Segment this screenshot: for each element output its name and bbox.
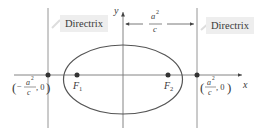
- svg-text:a: a: [207, 78, 211, 87]
- svg-text:): ): [46, 80, 50, 95]
- svg-text:2: 2: [156, 9, 159, 15]
- focus-f2-label: F 2: [163, 80, 173, 92]
- svg-text:a: a: [151, 11, 155, 21]
- svg-text:a: a: [26, 78, 30, 87]
- x-axis-label: x: [242, 79, 248, 90]
- svg-text:, 0: , 0: [36, 82, 45, 92]
- svg-text:(: (: [200, 80, 204, 95]
- svg-text:2: 2: [31, 75, 34, 81]
- right-directrix-point: [195, 73, 200, 78]
- focus-f2-point: [166, 73, 171, 78]
- y-axis-label: y: [113, 5, 119, 16]
- left-point-label: ( − a 2 c , 0 ): [12, 75, 50, 97]
- left-directrix-point: [46, 73, 51, 78]
- left-directrix-label: Directrix: [60, 15, 108, 32]
- distance-label: a 2 c: [149, 9, 162, 34]
- svg-text:): ): [227, 80, 231, 95]
- svg-text:−: −: [17, 81, 22, 91]
- svg-text:c: c: [153, 24, 157, 34]
- svg-text:2: 2: [170, 85, 173, 92]
- right-directrix-label: Directrix: [206, 17, 254, 34]
- svg-text:1: 1: [79, 85, 82, 92]
- right-point-label: ( a 2 c , 0 ): [200, 75, 231, 97]
- svg-text:(: (: [12, 80, 16, 95]
- focus-f1-point: [75, 73, 80, 78]
- svg-text:2: 2: [212, 75, 215, 81]
- svg-text:c: c: [208, 88, 212, 97]
- focus-f1-label: F 1: [72, 80, 82, 92]
- svg-text:c: c: [27, 88, 31, 97]
- svg-text:, 0: , 0: [216, 82, 225, 92]
